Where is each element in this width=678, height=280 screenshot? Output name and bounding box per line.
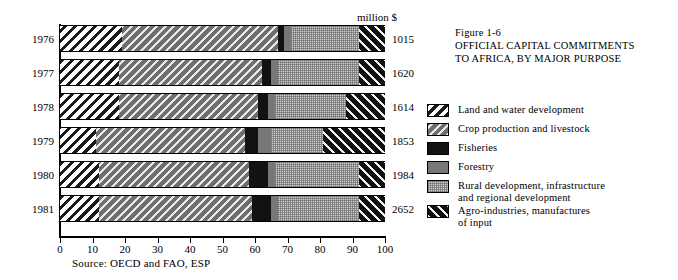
bar-total-label: 1614: [392, 101, 414, 113]
bar-row: 19801984: [60, 161, 385, 188]
bar-segment: [275, 162, 360, 187]
x-axis-tick-label: 100: [377, 243, 394, 255]
stacked-bar: [60, 161, 385, 188]
bar-segment: [262, 60, 272, 85]
legend-label: Agro-industries, manufactures of input: [458, 204, 677, 229]
bar-year-label: 1977: [32, 67, 54, 79]
legend-item: Crop production and livestock: [427, 122, 677, 139]
bar-segment: [359, 60, 385, 85]
x-axis-tick-label: 20: [120, 243, 131, 255]
legend-label: Land and water development: [458, 103, 677, 116]
bar-year-label: 1978: [32, 101, 54, 113]
bar-total-label: 1984: [392, 169, 414, 181]
bar-segment: [99, 196, 252, 221]
bar-row: 19781614: [60, 93, 385, 120]
bar-year-label: 1981: [32, 203, 54, 215]
legend-swatch-icon: [427, 142, 449, 155]
bar-segment: [359, 26, 385, 51]
legend-item: Rural development, infrastructure and re…: [427, 179, 677, 204]
legend-item: Land and water development: [427, 103, 677, 120]
x-axis-tick-label: 90: [347, 243, 358, 255]
bar-segment: [359, 162, 385, 187]
bar-segment: [346, 94, 385, 119]
x-axis-tick-label: 80: [315, 243, 326, 255]
source-note: Source: OECD and FAO, ESP: [72, 257, 210, 269]
x-axis-tick-label: 70: [282, 243, 293, 255]
x-axis-tick-label: 10: [87, 243, 98, 255]
bar-total-label: 2652: [392, 203, 414, 215]
legend-item: Fisheries: [427, 141, 677, 158]
figure-number: Figure 1-6: [455, 26, 635, 39]
bar-segment: [278, 196, 359, 221]
bar-segment: [96, 128, 246, 153]
bar-segment: [60, 94, 119, 119]
legend-label: Crop production and livestock: [458, 122, 677, 135]
bar-row: 19761015: [60, 25, 385, 52]
figure-title-line2: TO AFRICA, BY MAJOR PURPOSE: [455, 52, 635, 65]
bar-segment: [271, 128, 323, 153]
bar-total-label: 1015: [392, 33, 414, 45]
bar-segment: [278, 60, 359, 85]
bar-segment: [60, 26, 122, 51]
bar-year-label: 1980: [32, 169, 54, 181]
stacked-bar: [60, 93, 385, 120]
bar-segment: [60, 162, 99, 187]
bar-segment: [359, 196, 385, 221]
bar-segment: [252, 196, 272, 221]
bar-segment: [258, 94, 268, 119]
stacked-bar: [60, 25, 385, 52]
bar-row: 19791853: [60, 127, 385, 154]
bar-segment: [291, 26, 359, 51]
bar-segment: [60, 60, 119, 85]
bar-segment: [275, 94, 347, 119]
right-panel: Figure 1-6 OFFICIAL CAPITAL COMMITMENTS …: [455, 0, 678, 280]
bar-segment: [60, 196, 99, 221]
x-axis-tick-label: 0: [57, 243, 63, 255]
legend-item: Agro-industries, manufactures of input: [427, 204, 677, 229]
figure-title-line1: OFFICIAL CAPITAL COMMITMENTS: [455, 39, 635, 52]
bar-year-label: 1979: [32, 135, 54, 147]
unit-label: million $: [357, 11, 397, 23]
x-axis-tick-label: 30: [152, 243, 163, 255]
x-axis-tick-label: 60: [250, 243, 261, 255]
bar-total-label: 1620: [392, 67, 414, 79]
legend-swatch-icon: [427, 180, 449, 193]
legend-label: Rural development, infrastructure and re…: [458, 179, 677, 204]
bar-segment: [323, 128, 385, 153]
bar-year-label: 1976: [32, 33, 54, 45]
bar-row: 19812652: [60, 195, 385, 222]
stacked-bar: [60, 127, 385, 154]
bar-row: 19771620: [60, 59, 385, 86]
x-axis-tick-label: 40: [185, 243, 196, 255]
x-axis-tick-label: 50: [217, 243, 228, 255]
legend-label: Fisheries: [458, 141, 677, 154]
legend-swatch-icon: [427, 104, 449, 117]
bar-segment: [119, 94, 259, 119]
bar-segment: [60, 128, 96, 153]
bar-segment: [119, 60, 262, 85]
stacked-bar: [60, 59, 385, 86]
legend-swatch-icon: [427, 161, 449, 174]
legend: Land and water developmentCrop productio…: [427, 103, 677, 229]
legend-label: Forestry: [458, 160, 677, 173]
legend-swatch-icon: [427, 123, 449, 136]
bar-segment: [122, 26, 278, 51]
bar-segment: [99, 162, 249, 187]
bar-total-label: 1853: [392, 135, 414, 147]
stacked-bar: [60, 195, 385, 222]
legend-item: Forestry: [427, 160, 677, 177]
bar-segment: [258, 128, 271, 153]
legend-swatch-icon: [427, 205, 449, 218]
chart-region: million $ 0102030405060708090100 1976101…: [0, 0, 410, 280]
bar-segment: [249, 162, 269, 187]
figure-caption: Figure 1-6 OFFICIAL CAPITAL COMMITMENTS …: [455, 26, 635, 65]
bar-segment: [245, 128, 258, 153]
